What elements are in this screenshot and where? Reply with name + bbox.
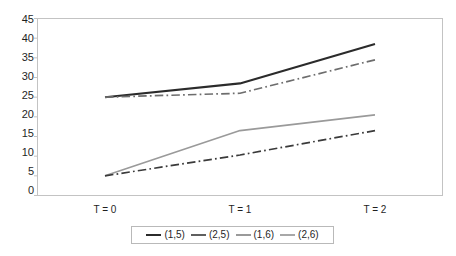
- legend-item-label: (2,5): [209, 230, 230, 240]
- legend-item[interactable]: (2,6): [277, 230, 322, 240]
- x-tick-label: T = 2: [345, 205, 405, 215]
- legend-item[interactable]: (2,5): [188, 230, 233, 240]
- legend-item[interactable]: (1,5): [143, 230, 188, 240]
- legend-line-icon: [280, 234, 295, 236]
- y-tick-label: 5: [8, 166, 34, 177]
- y-tick-label: 45: [8, 14, 34, 25]
- x-tick-label: T = 0: [75, 205, 135, 215]
- legend-item-label: (1,5): [164, 230, 185, 240]
- legend-line-icon: [146, 234, 161, 236]
- y-tick-label: 40: [8, 33, 34, 44]
- y-tick-label: 35: [8, 52, 34, 63]
- y-tick-label: 10: [8, 147, 34, 158]
- y-axis-ticks: [34, 19, 38, 196]
- legend-line-icon: [236, 234, 251, 236]
- y-tick-label: 30: [8, 71, 34, 82]
- legend-line-icon: [191, 234, 206, 236]
- plot-frame: [38, 19, 443, 196]
- plot-area: [0, 0, 456, 256]
- x-tick-label: T = 1: [210, 205, 270, 215]
- line-chart: 45 40 35 30 25 20 15 10 5 0 T = 0 T = 1 …: [0, 0, 456, 256]
- y-tick-label: 15: [8, 128, 34, 139]
- legend-item-label: (1,6): [254, 230, 275, 240]
- legend-item[interactable]: (1,6): [233, 230, 278, 240]
- y-tick-label: 25: [8, 90, 34, 101]
- y-tick-label: 0: [8, 185, 34, 196]
- y-tick-label: 20: [8, 109, 34, 120]
- chart-legend: (1,5) (2,5) (1,6) (2,6): [131, 226, 334, 244]
- legend-item-label: (2,6): [298, 230, 319, 240]
